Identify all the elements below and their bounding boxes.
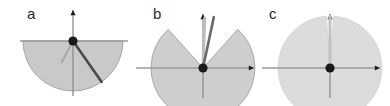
panel-c-label: c [269,5,277,22]
panel-a-label: a [27,5,36,22]
figure-canvas: a b c [0,0,390,106]
panel-b-origin-dot [198,63,207,72]
panel-c: c [262,5,382,106]
panel-a-vertical-axis-arrow-icon [70,10,75,15]
panel-a-origin-dot [68,36,77,45]
panel-c-origin-dot [325,63,334,72]
panel-b: b [136,5,255,106]
panel-a: a [20,5,128,96]
diagram-svg: a b c [0,0,390,106]
panel-b-label: b [153,5,161,22]
